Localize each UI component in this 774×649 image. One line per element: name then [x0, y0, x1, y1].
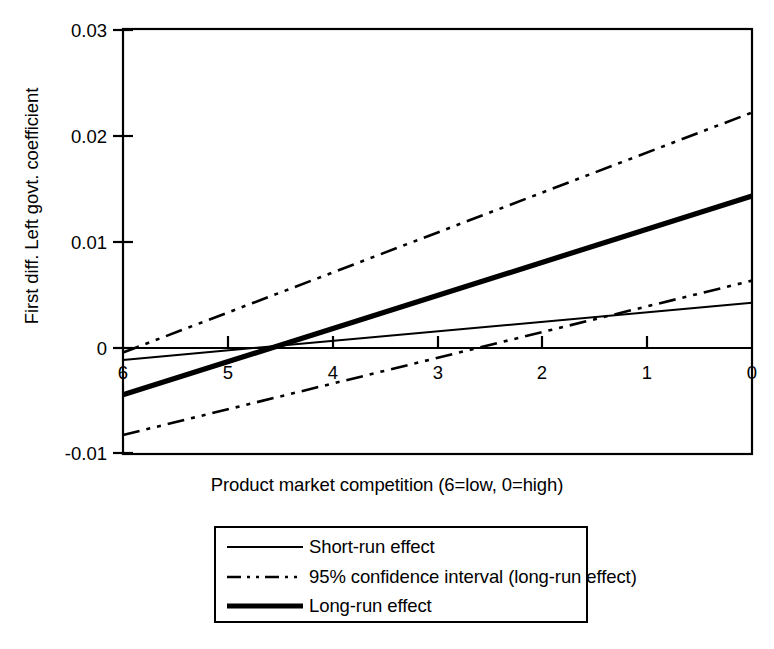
- y-tick-label: 0.01: [71, 232, 107, 253]
- y-tick-label: 0.03: [71, 20, 107, 41]
- y-tick-label: 0: [97, 338, 107, 359]
- chart-figure: 0.03 0.02 0.01 0 -0.01 6 5 4 3 2 1 0: [0, 0, 774, 649]
- legend-item-confidence-interval: 95% confidence interval (long-run effect…: [216, 562, 586, 592]
- x-tick-label: 3: [433, 362, 443, 383]
- legend-item-short-run: Short-run effect: [216, 532, 586, 562]
- y-tick-label: -0.01: [65, 443, 107, 464]
- legend-swatch-solid-thin: [225, 540, 305, 554]
- y-tick-label: 0.02: [71, 126, 107, 147]
- x-tick-label: 1: [642, 362, 652, 383]
- y-tick-labels: 0.03 0.02 0.01 0 -0.01: [65, 20, 107, 464]
- x-tick-label: 2: [537, 362, 547, 383]
- x-tick-label: 0: [747, 362, 757, 383]
- x-tick-label: 6: [118, 362, 128, 383]
- legend-swatch-dash-dot: [225, 570, 305, 584]
- legend-swatch-solid-thick: [225, 599, 305, 613]
- legend-item-long-run: Long-run effect: [216, 591, 586, 621]
- legend-label: Long-run effect: [309, 595, 432, 617]
- legend: Short-run effect 95% confidence interval…: [214, 526, 588, 623]
- y-axis-title: First diff. Left govt. coefficient: [21, 36, 43, 376]
- x-axis-title: Product market competition (6=low, 0=hig…: [0, 474, 774, 496]
- legend-label: Short-run effect: [309, 536, 435, 558]
- x-tick-label: 4: [328, 362, 338, 383]
- legend-label: 95% confidence interval (long-run effect…: [309, 566, 637, 588]
- plot-frame: [123, 29, 752, 454]
